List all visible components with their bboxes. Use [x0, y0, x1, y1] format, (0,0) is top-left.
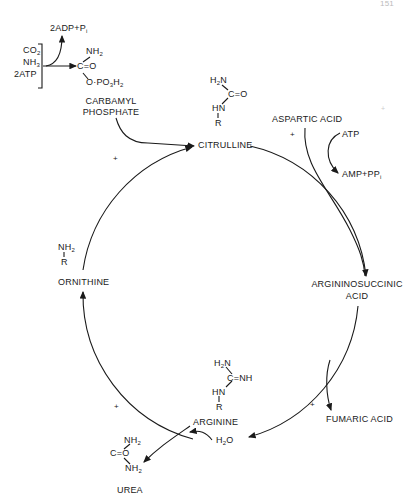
urea-nh2-bottom: NH2 — [125, 464, 142, 474]
argininosuccinic-acid-name: ARGININOSUCCINICACID — [305, 280, 404, 301]
amp-ppi-label: AMP+PPi — [342, 170, 382, 180]
atp-input-label: 2ATP — [14, 70, 37, 79]
urea-co: C=O — [110, 449, 129, 458]
water-label: H2O — [216, 436, 233, 446]
page-number: 151 — [380, 0, 394, 8]
plus-arginine: + — [114, 403, 119, 411]
arc-ornithine-to-citrulline — [83, 147, 192, 270]
ornithine-name: ORNITHINE — [58, 278, 109, 287]
arrow-atp-to-amp — [328, 133, 340, 173]
arginine-h2n: H2N — [214, 359, 231, 369]
arginine-cnh: C=NH — [227, 374, 253, 383]
arrow-arginine-to-urea — [144, 426, 190, 462]
plus-faint: + — [381, 105, 385, 112]
urea-name: UREA — [117, 486, 143, 495]
plus-aspartic: + — [290, 131, 295, 139]
atp-label: ATP — [342, 130, 359, 139]
arrow-water — [190, 431, 212, 440]
carbamyl-nh2: NH2 — [86, 47, 103, 57]
plus-citrulline: + — [113, 155, 118, 163]
citrulline-h2n: H2N — [210, 76, 227, 86]
ornithine-nh2: NH2 — [58, 243, 75, 253]
arc-arginine-to-ornithine — [83, 292, 193, 439]
arc-citrulline-to-argininosuccinic — [250, 146, 366, 276]
nh3-label: NH3 — [23, 58, 40, 68]
carbamyl-phosphate-name: CARBAMYLPHOSPHATE — [78, 97, 144, 117]
carbamyl-co: C=O — [77, 62, 96, 71]
urea-nh2-top: NH2 — [124, 436, 141, 446]
citrulline-co: C=O — [228, 90, 247, 99]
arrow-carbamyl-to-citrulline — [116, 118, 194, 146]
citrulline-r: R — [215, 119, 222, 128]
arrow-to-adp — [46, 36, 62, 66]
arginine-r: R — [216, 403, 223, 412]
ornithine-r: R — [61, 258, 68, 267]
co2-label: CO2 — [23, 46, 40, 56]
citrulline-hn: HN — [212, 104, 225, 113]
plus-fumaric: + — [310, 401, 315, 409]
aspartic-acid-name: ASPARTIC ACID — [272, 115, 342, 124]
arginine-name: ARGININE — [193, 418, 238, 427]
citrulline-name: CITRULLINE — [198, 141, 253, 150]
arginine-hn: HN — [212, 388, 225, 397]
carbamyl-opo3h2: O·PO3H2 — [86, 78, 124, 88]
fumaric-acid-name: FUMARIC ACID — [326, 415, 393, 424]
adp-byproduct-label: 2ADP+Pi — [50, 24, 88, 34]
arrow-aspartic-feed — [305, 128, 365, 276]
